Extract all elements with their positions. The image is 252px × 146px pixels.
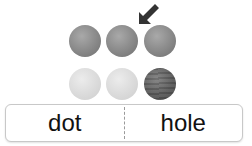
ball-1	[69, 25, 101, 57]
ball-4	[69, 68, 101, 100]
answer-choices: dot hole	[5, 104, 243, 142]
ball-6	[144, 68, 176, 100]
picture-card: dot hole	[0, 0, 252, 146]
choice-hole-button[interactable]: hole	[125, 105, 243, 141]
ball-3	[144, 25, 176, 57]
ball-5	[106, 68, 138, 100]
arrow-down-left-icon	[136, 3, 160, 27]
ball-2-marked	[106, 25, 138, 57]
choice-dot-button[interactable]: dot	[6, 105, 124, 141]
